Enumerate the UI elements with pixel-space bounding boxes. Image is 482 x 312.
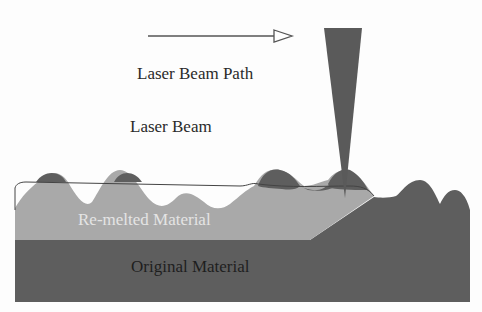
ripple-peak bbox=[36, 173, 66, 182]
original-material-label: Original Material bbox=[131, 257, 250, 277]
laser-remelting-diagram: Laser Beam Path Laser Beam Re-melted Mat… bbox=[0, 0, 482, 312]
laser-beam-label: Laser Beam bbox=[130, 117, 212, 137]
remelted-material-label: Re-melted Material bbox=[78, 210, 211, 230]
laser-beam-path-label: Laser Beam Path bbox=[137, 64, 253, 84]
ripple-peak bbox=[328, 170, 368, 190]
beam-path-arrow-head bbox=[274, 30, 292, 42]
laser-beam-icon bbox=[324, 28, 362, 198]
